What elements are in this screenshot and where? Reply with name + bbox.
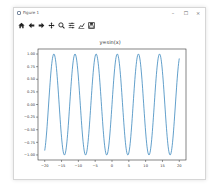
x-tick-label: 15	[160, 164, 165, 168]
zoom-icon	[58, 22, 65, 29]
y-tick-label: 0.75	[27, 65, 35, 69]
figure-canvas[interactable]: y=sin(x) −20−15−10−505101520−1.00−0.75−0…	[14, 32, 205, 180]
x-tick-label: −15	[58, 164, 66, 168]
window-title: Figure 1	[23, 9, 39, 17]
sine-chart: y=sin(x) −20−15−10−505101520−1.00−0.75−0…	[14, 32, 205, 180]
x-tick-label: 5	[128, 164, 130, 168]
sliders-icon	[68, 22, 75, 29]
x-tick-label: −20	[41, 164, 49, 168]
x-tick-label: −5	[93, 164, 98, 168]
figure-window: Figure 1 – ☐ × y=sin(x)	[13, 7, 206, 180]
axes: −20−15−10−505101520−1.00−0.75−0.50−0.250…	[24, 49, 186, 168]
matplotlib-app-icon	[17, 11, 21, 15]
y-tick-label: 0.00	[27, 103, 36, 107]
pan-button[interactable]	[47, 21, 55, 30]
chart-title: y=sin(x)	[99, 39, 120, 46]
move-icon	[48, 22, 55, 29]
line-chart-icon	[78, 22, 85, 29]
save-button[interactable]	[87, 21, 95, 30]
x-tick-label: 0	[111, 164, 114, 168]
y-tick-label: −0.75	[24, 141, 35, 145]
y-tick-label: −0.25	[24, 115, 35, 119]
back-button[interactable]	[27, 21, 35, 30]
y-tick-label: −0.50	[24, 128, 36, 132]
home-button[interactable]	[17, 21, 25, 30]
x-tick-label: 10	[143, 164, 148, 168]
title-bar[interactable]: Figure 1 – ☐ ×	[14, 8, 205, 18]
zoom-button[interactable]	[57, 21, 65, 30]
arrow-right-icon	[38, 22, 45, 29]
y-tick-label: 0.50	[27, 77, 36, 81]
x-tick-label: −10	[75, 164, 83, 168]
navigation-toolbar	[17, 20, 95, 30]
forward-button[interactable]	[37, 21, 45, 30]
x-tick-label: 20	[177, 164, 182, 168]
save-icon	[88, 22, 95, 29]
configure-subplots-button[interactable]	[67, 21, 75, 30]
minimize-button[interactable]: –	[167, 8, 179, 18]
y-tick-label: 0.25	[27, 90, 35, 94]
y-tick-label: 1.00	[27, 52, 36, 56]
close-button[interactable]: ×	[192, 8, 204, 18]
home-icon	[18, 22, 25, 29]
edit-axis-button[interactable]	[77, 21, 85, 30]
arrow-left-icon	[28, 22, 35, 29]
maximize-button[interactable]: ☐	[180, 8, 192, 18]
y-tick-label: −1.00	[24, 153, 36, 157]
